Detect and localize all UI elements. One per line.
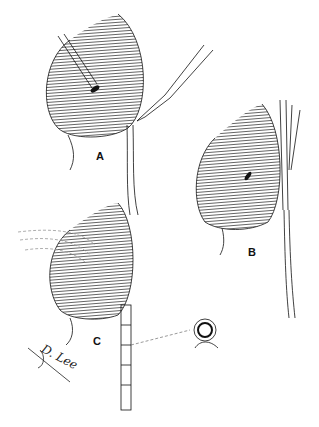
panel-a-side-curve [68,135,74,170]
panel-b-side-curve [220,228,224,255]
hatch-line [40,204,140,212]
panel-label-c: C [93,335,101,347]
hatch-line [190,92,290,100]
panel-c-stent-joints [121,325,131,385]
hatch-line [40,195,140,203]
hatch-line [40,192,140,200]
hatch-line [40,2,150,10]
hatch-line [40,201,140,209]
hatch-line [40,14,150,22]
panel-c-callout-line [131,330,190,345]
panel-c-stent [121,305,131,410]
hatch-line [190,98,290,106]
illustration-canvas: A B C D. Lee [0,0,319,427]
cross-section-base [195,342,218,348]
hatch-line [190,107,290,115]
panel-b-forceps [280,100,300,210]
panel-c-side-curve [66,318,73,345]
illustration-svg [0,0,319,427]
panel-a-duct [127,125,138,215]
hatch-line [190,104,290,112]
panel-label-a: A [96,150,104,162]
cross-section-inner [198,323,212,337]
hatch-line [190,110,290,118]
hatch-line [190,95,290,103]
panel-label-b: B [248,246,256,258]
panel-a-scalpel [137,45,213,121]
panel-b-bladder [190,92,290,235]
panel-b-duct [284,210,295,318]
hatch-line [40,8,150,16]
hatch-line [40,11,150,19]
panel-a-bladder [40,2,150,139]
hatch-line [40,198,140,206]
hatch-line [190,101,290,109]
hatch-line [40,5,150,13]
panel-c-bladder [40,192,140,323]
